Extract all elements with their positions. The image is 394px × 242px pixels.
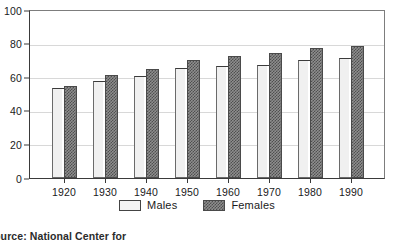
bar-females xyxy=(269,53,282,178)
x-tick-mark xyxy=(105,179,106,183)
y-tick-label-0: 0 xyxy=(16,173,22,185)
x-tick-mark xyxy=(146,179,147,183)
x-tick-label-1930: 1930 xyxy=(93,186,117,198)
bar-females xyxy=(187,60,200,178)
legend-swatch-females-icon xyxy=(203,200,225,211)
bar-females xyxy=(351,46,364,178)
x-tick-mark xyxy=(351,179,352,183)
legend-swatch-males-icon xyxy=(119,200,141,211)
bar-series-container xyxy=(30,10,384,178)
y-tick-mark-40 xyxy=(24,111,29,112)
x-tick-label-1920: 1920 xyxy=(52,186,76,198)
y-tick-mark-60 xyxy=(24,77,29,78)
y-tick-mark-80 xyxy=(24,44,29,45)
x-tick-mark xyxy=(64,179,65,183)
x-tick-mark xyxy=(269,179,270,183)
x-tick-label-1940: 1940 xyxy=(134,186,158,198)
legend-item-males: Males xyxy=(119,199,177,211)
legend-item-females: Females xyxy=(203,199,275,211)
bar-chart-figure: 100 80 60 40 20 0 xyxy=(0,0,394,242)
legend-label-males: Males xyxy=(147,199,177,211)
source-note: Source: National Center for xyxy=(0,230,126,242)
x-tick-label-1980: 1980 xyxy=(298,186,322,198)
x-tick-label-1990: 1990 xyxy=(339,186,363,198)
chart-legend: Males Females xyxy=(0,199,394,211)
x-tick-mark xyxy=(228,179,229,183)
y-tick-mark-0 xyxy=(24,178,29,179)
bar-females xyxy=(105,75,118,178)
bar-females xyxy=(64,86,77,178)
legend-label-females: Females xyxy=(231,199,275,211)
bar-females xyxy=(310,48,323,178)
y-tick-label-40: 40 xyxy=(10,105,22,117)
y-tick-mark-100 xyxy=(24,10,29,11)
y-tick-label-100: 100 xyxy=(4,5,22,17)
y-tick-mark-20 xyxy=(24,144,29,145)
y-tick-label-80: 80 xyxy=(10,38,22,50)
x-tick-label-1970: 1970 xyxy=(257,186,281,198)
x-tick-label-1960: 1960 xyxy=(216,186,240,198)
x-tick-mark xyxy=(310,179,311,183)
bar-females xyxy=(228,56,241,178)
y-tick-label-60: 60 xyxy=(10,72,22,84)
x-tick-mark xyxy=(187,179,188,183)
x-tick-label-1950: 1950 xyxy=(175,186,199,198)
bar-females xyxy=(146,69,159,178)
y-tick-label-20: 20 xyxy=(10,139,22,151)
